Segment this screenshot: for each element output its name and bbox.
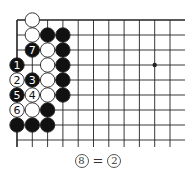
move-number-label: 4 — [29, 89, 36, 102]
black-stone — [40, 28, 54, 42]
black-stone — [56, 73, 70, 87]
move-number-label: 7 — [29, 44, 36, 57]
move-number-label: 1 — [14, 59, 21, 72]
move-number-label: 5 — [14, 89, 21, 102]
black-stone — [40, 103, 54, 117]
black-stone — [10, 118, 24, 132]
black-stone — [40, 118, 54, 132]
white-stone — [25, 103, 39, 117]
caption-move-2: 2 — [107, 154, 121, 168]
black-stone — [25, 118, 39, 132]
white-stone — [25, 28, 39, 42]
black-stone — [56, 88, 70, 102]
move-number-label: 3 — [29, 74, 36, 87]
white-stone — [40, 43, 54, 57]
white-stone — [40, 58, 54, 72]
caption-equals: = — [93, 152, 104, 170]
move-caption: 8=2 — [0, 151, 196, 169]
go-board: 7123546 — [0, 0, 196, 150]
caption-move-8: 8 — [75, 154, 89, 168]
white-stone — [40, 88, 54, 102]
move-number-label: 6 — [14, 104, 21, 117]
black-stone — [56, 28, 70, 42]
move-number-label: 2 — [14, 74, 21, 87]
white-stone — [40, 73, 54, 87]
black-stone — [56, 58, 70, 72]
white-stone — [25, 13, 39, 27]
black-stone — [56, 43, 70, 57]
star-point-icon — [153, 63, 157, 67]
